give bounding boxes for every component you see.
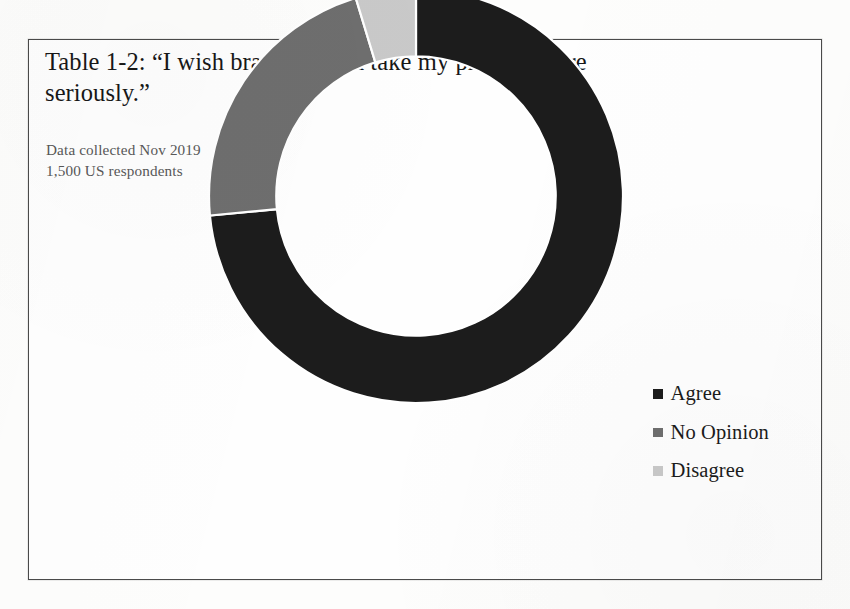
legend-label-no-opinion: No Opinion — [671, 421, 769, 443]
legend-label-agree: Agree — [671, 382, 722, 404]
donut-chart-svg — [206, 0, 626, 406]
legend-item-disagree[interactable]: Disagree — [653, 451, 769, 490]
legend-item-no-opinion[interactable]: No Opinion — [653, 413, 769, 452]
legend-swatch-no-opinion — [653, 428, 663, 438]
figure-page: Table 1-2: “I wish brands would take my … — [0, 0, 850, 609]
chart-legend: Agree No Opinion Disagree — [653, 374, 769, 490]
donut-segment-no-opinion[interactable] — [209, 0, 375, 215]
legend-item-agree[interactable]: Agree — [653, 374, 769, 413]
legend-label-disagree: Disagree — [671, 459, 745, 481]
figure-frame: Table 1-2: “I wish brands would take my … — [28, 39, 822, 580]
legend-swatch-disagree — [653, 466, 663, 476]
legend-swatch-agree — [653, 389, 663, 399]
donut-segments — [209, 0, 623, 403]
